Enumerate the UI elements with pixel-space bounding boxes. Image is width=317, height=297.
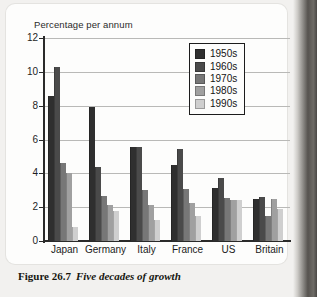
book-spine-shadow <box>293 0 317 297</box>
x-label-us: US <box>208 244 249 255</box>
y-tick-label: 4 <box>12 167 38 178</box>
y-axis-title: Percentage per annum <box>34 19 133 30</box>
x-label-britain: Britain <box>249 244 290 255</box>
bar-japan-1990s[interactable] <box>72 227 78 241</box>
figure-card: Percentage per annum 024681012 JapanGerm… <box>6 4 287 264</box>
bar-group-germany <box>89 38 118 241</box>
figure-caption: Figure 26.7Five decades of growth <box>18 270 288 282</box>
y-tick-label: 6 <box>12 134 38 145</box>
legend-label-1990s: 1990s <box>210 99 237 109</box>
bar-group-italy <box>130 38 159 241</box>
figure-caption-text: Five decades of growth <box>76 270 181 282</box>
figure-caption-label: Figure 26.7 <box>18 270 71 282</box>
y-tick-label: 2 <box>12 201 38 212</box>
legend-label-1970s: 1970s <box>210 74 237 84</box>
y-tick-label: 12 <box>12 32 38 43</box>
y-tick-label: 0 <box>12 235 38 246</box>
plot-area <box>44 38 290 241</box>
page-background: Percentage per annum 024681012 JapanGerm… <box>0 0 317 297</box>
legend[interactable]: 1950s1960s1970s1980s1990s <box>189 43 245 115</box>
legend-label-1980s: 1980s <box>210 86 237 96</box>
legend-item-1970s[interactable]: 1970s <box>195 73 237 85</box>
bar-britain-1990s[interactable] <box>277 209 283 241</box>
legend-swatch-1990s <box>195 99 205 109</box>
legend-item-1980s[interactable]: 1980s <box>195 85 237 97</box>
legend-swatch-1950s <box>195 49 205 59</box>
bar-group-japan <box>48 38 77 241</box>
y-tick-label: 10 <box>12 66 38 77</box>
legend-item-1990s[interactable]: 1990s <box>195 98 237 110</box>
bar-us-1990s[interactable] <box>236 200 242 241</box>
legend-swatch-1970s <box>195 74 205 84</box>
bar-germany-1990s[interactable] <box>113 211 119 241</box>
bar-chart: Percentage per annum 024681012 JapanGerm… <box>12 8 293 260</box>
x-label-italy: Italy <box>126 244 167 255</box>
legend-swatch-1960s <box>195 62 205 72</box>
y-tick-label: 8 <box>12 100 38 111</box>
bar-group-britain <box>253 38 282 241</box>
legend-label-1950s: 1950s <box>210 49 237 59</box>
legend-swatch-1980s <box>195 86 205 96</box>
x-label-france: France <box>167 244 208 255</box>
bar-italy-1990s[interactable] <box>154 220 160 241</box>
bar-france-1990s[interactable] <box>195 216 201 241</box>
x-label-germany: Germany <box>85 244 126 255</box>
legend-label-1960s: 1960s <box>210 62 237 72</box>
x-label-japan: Japan <box>44 244 85 255</box>
legend-item-1960s[interactable]: 1960s <box>195 60 237 72</box>
legend-item-1950s[interactable]: 1950s <box>195 48 237 60</box>
y-axis-tick-labels: 024681012 <box>12 8 38 260</box>
